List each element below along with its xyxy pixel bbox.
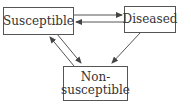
node-label-line2: susceptible [61, 84, 130, 97]
arrow-nonsusceptible-to-susceptible [50, 37, 74, 66]
node-diseased: Diseased [124, 6, 176, 33]
node-non-susceptible: Non- susceptible [63, 66, 128, 101]
node-label-line1: Non- [81, 71, 111, 84]
node-label: Diseased [123, 13, 178, 26]
node-susceptible: Susceptible [3, 7, 74, 35]
arrow-susceptible-to-nonsusceptible [57, 34, 81, 63]
node-label: Susceptible [3, 15, 74, 28]
arrow-diseased-to-nonsusceptible [112, 33, 140, 63]
